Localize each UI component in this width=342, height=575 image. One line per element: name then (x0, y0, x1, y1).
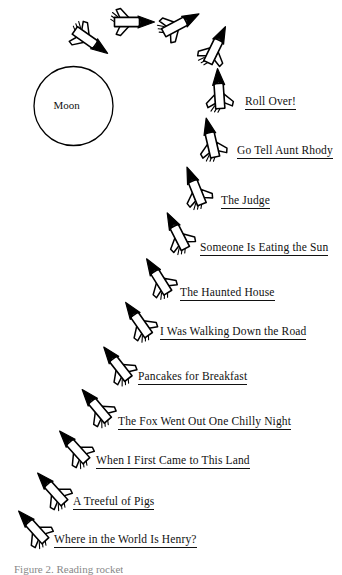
rocket-icon (64, 17, 115, 64)
moon-label: Moon (54, 99, 80, 111)
figure-caption: Figure 2. Reading rocket (14, 563, 123, 575)
book-title-label: Pancakes for Breakfast (138, 370, 247, 385)
rocket-icon (72, 381, 121, 432)
book-title-label: The Judge (221, 194, 270, 209)
rocket-icon (155, 207, 199, 258)
rocket-icon (93, 339, 141, 390)
rocket-icon (174, 162, 215, 213)
book-title-label: I Was Walking Down the Road (160, 325, 306, 340)
rocket-icon (194, 21, 237, 72)
rocket-trajectory-figure (0, 0, 342, 575)
book-title-label: Where in the World Is Henry? (54, 533, 197, 548)
rocket-icon (115, 295, 162, 346)
rocket-icon (135, 252, 181, 303)
rocket-icon (9, 502, 58, 553)
rocket-icon (193, 115, 229, 164)
rocket-icon (28, 464, 77, 515)
book-title-label: The Haunted House (180, 286, 275, 301)
rocket-icon (204, 68, 234, 113)
rocket-icon (111, 9, 155, 36)
book-title-label: When I First Came to This Land (96, 454, 250, 469)
book-title-label: Someone Is Eating the Sun (200, 241, 328, 256)
book-title-label: Go Tell Aunt Rhody (237, 144, 333, 159)
book-title-label: The Fox Went Out One Chilly Night (118, 415, 291, 430)
rocket-icon (50, 422, 99, 473)
rocket-icon (154, 2, 205, 46)
book-title-label: A Treeful of Pigs (73, 495, 154, 510)
book-title-label: Roll Over! (245, 95, 296, 110)
